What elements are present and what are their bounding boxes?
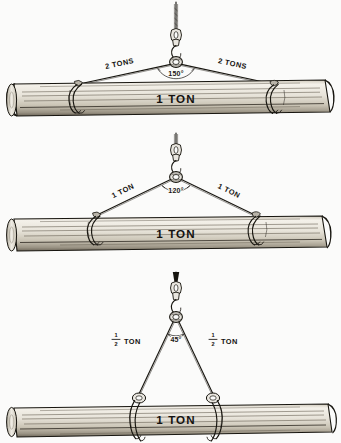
lifting-hook-icon xyxy=(172,39,181,59)
unit-label-right: TON xyxy=(221,337,238,346)
fraction-denominator-right: 2 xyxy=(211,341,214,347)
fraction-denominator-left: 2 xyxy=(114,341,117,347)
fraction-numerator-right: 1 xyxy=(211,332,214,338)
sling-legs xyxy=(96,180,256,217)
leg-label-left-45: 1 2 TON xyxy=(112,332,141,347)
load-label-150: 1 TON xyxy=(156,92,195,105)
lifting-hook-icon xyxy=(171,292,180,313)
load-label-120: 1 TON xyxy=(156,227,195,240)
diagram-panel-120-degrees: 120° 1 TON 1 TON xyxy=(0,133,341,278)
lifting-hook-icon xyxy=(172,154,181,174)
fraction-numerator-left: 1 xyxy=(114,332,117,338)
unit-label-left: TON xyxy=(124,337,141,346)
angle-label-120: 120° xyxy=(168,187,183,194)
leg-label-right-120: 1 TON xyxy=(216,181,241,200)
angle-label-45: 45° xyxy=(170,336,181,343)
leg-label-right-45: 1 2 TON xyxy=(209,332,238,347)
load-label-45: 1 TON xyxy=(156,413,195,426)
leg-label-left-120: 1 TON xyxy=(110,181,135,200)
figure-sheet: 150° 2 TONS 2 TONS xyxy=(0,0,341,443)
leg-label-left-150: 2 TONS xyxy=(104,56,134,71)
diagram-panel-45-degrees: 45° 1 2 TON 1 2 TON xyxy=(0,272,341,443)
angle-label-150: 150° xyxy=(168,70,183,77)
diagram-panel-150-degrees: 150° 2 TONS 2 TONS xyxy=(0,0,341,140)
sling-legs xyxy=(139,322,213,394)
master-ring-icon xyxy=(170,312,183,323)
leg-label-right-150: 2 TONS xyxy=(217,56,247,71)
overhead-cable xyxy=(174,2,177,30)
master-ring-icon xyxy=(170,172,183,183)
master-ring-icon xyxy=(170,57,183,68)
